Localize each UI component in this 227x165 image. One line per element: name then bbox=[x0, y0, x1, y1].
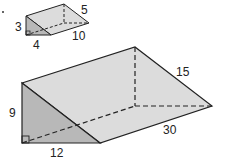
small-prism: 3 4 10 5 bbox=[15, 3, 89, 52]
large-slant-label: 15 bbox=[176, 65, 190, 79]
diagram-canvas: 3 4 10 5 9 12 30 15 bbox=[0, 0, 227, 165]
small-base-label: 4 bbox=[33, 38, 40, 52]
small-slant-label: 5 bbox=[81, 3, 88, 17]
large-base-label: 12 bbox=[50, 146, 64, 160]
large-length-label: 30 bbox=[163, 123, 177, 137]
large-prism: 9 12 30 15 bbox=[9, 47, 212, 160]
small-height-label: 3 bbox=[15, 20, 22, 34]
stray-dot bbox=[2, 11, 4, 13]
small-length-label: 10 bbox=[72, 29, 86, 43]
large-height-label: 9 bbox=[9, 106, 16, 120]
